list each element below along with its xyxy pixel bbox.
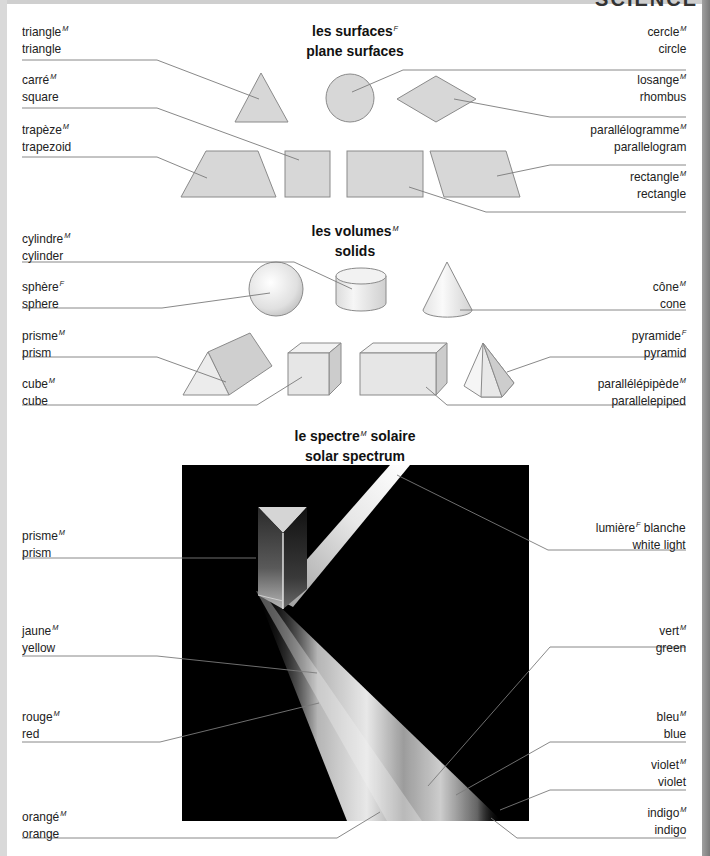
cube-shape [288, 343, 341, 395]
label-rhombus: losangeM rhombus [637, 67, 686, 107]
label-green: vertM green [655, 618, 686, 658]
label-prism-solid: prismeM prism [22, 323, 65, 363]
label-rectangle: rectangleM rectangle [630, 164, 686, 204]
label-indigo: indigoM indigo [647, 800, 686, 840]
label-red: rougeM red [22, 704, 60, 744]
label-blue: bleuM blue [656, 704, 686, 744]
label-spectrum-prism: prismeM prism [22, 523, 65, 563]
rhombus-shape [397, 76, 476, 122]
trapezoid-shape [181, 151, 276, 197]
label-square: carréM square [22, 67, 59, 107]
label-cube: cubeM cube [22, 371, 55, 411]
label-cylinder: cylindreM cylinder [22, 226, 70, 266]
label-cone: côneM cone [653, 274, 686, 314]
label-white-light: lumièreF blanche white light [596, 515, 686, 555]
label-sphere: sphèreF sphere [22, 274, 64, 314]
label-yellow: jauneM yellow [22, 618, 58, 658]
prism-solid-shape [183, 333, 272, 395]
label-orange: orangéM orange [22, 804, 66, 844]
label-violet: violetM violet [651, 752, 686, 792]
label-triangle: triangleM triangle [22, 19, 68, 59]
cone-shape [423, 262, 472, 317]
triangle-shape [235, 73, 288, 122]
parallelepiped-shape [360, 343, 447, 395]
label-circle: cercleM circle [647, 19, 686, 59]
square-shape [285, 151, 330, 197]
circle-shape [326, 74, 374, 122]
sphere-shape [249, 262, 303, 316]
cylinder-shape [336, 268, 386, 311]
label-parallelepiped: parallélépipèdeM parallelepiped [598, 371, 686, 411]
label-parallelogram: parallélogrammeM parallelogram [590, 117, 686, 157]
label-trapezoid: trapèzeM trapezoid [22, 117, 71, 157]
label-pyramid: pyramideF pyramid [631, 323, 686, 363]
rectangle-shape [347, 151, 423, 197]
pyramid-shape [464, 343, 514, 397]
